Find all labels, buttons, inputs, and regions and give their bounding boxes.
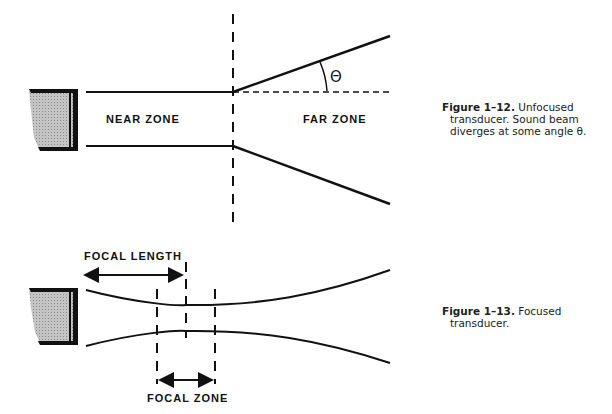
angle-theta-label: Θ: [330, 68, 342, 86]
figure-number: Figure 1–12.: [442, 101, 515, 113]
figure-number: Figure 1–13.: [442, 305, 515, 317]
near-zone-label: NEAR ZONE: [106, 113, 180, 125]
figure-1-12-diagram: Θ NEAR ZONE FAR ZONE: [29, 14, 390, 224]
figure-1-13-diagram: FOCAL LENGTH FOCAL ZONE: [29, 250, 390, 404]
focal-length-label: FOCAL LENGTH: [84, 250, 182, 262]
caption-text: diverges at some angle θ.: [442, 125, 612, 137]
diagram-canvas: Θ NEAR ZONE FAR ZONE FOCAL LENGTH FOCAL …: [0, 0, 612, 414]
caption-text: Unfocused: [518, 101, 573, 113]
figure-1-13-caption: Figure 1–13. Focused transducer.: [442, 305, 612, 329]
far-zone-label: FAR ZONE: [303, 113, 367, 125]
caption-text: transducer. Sound beam: [442, 113, 612, 125]
divergent-upper-edge: [233, 36, 390, 92]
transducer-icon: [29, 89, 78, 151]
caption-text: transducer.: [442, 317, 612, 329]
angle-arc: [320, 62, 327, 91]
divergent-lower-edge: [233, 146, 390, 204]
beam-lower-curve: [86, 331, 390, 363]
focal-zone-label: FOCAL ZONE: [147, 392, 228, 404]
transducer-icon: [29, 288, 78, 345]
caption-text: Focused: [518, 305, 561, 317]
figure-1-12-caption: Figure 1–12. Unfocused transducer. Sound…: [442, 101, 612, 137]
